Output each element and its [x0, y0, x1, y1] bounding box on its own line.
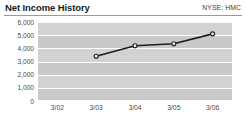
net-income-history-widget: Net Income History NYSE: HMC 6,0005,0004… [0, 0, 246, 128]
y-axis-tick-label: 2,000 [17, 71, 34, 78]
y-axis-tick-label: 5,000 [17, 32, 34, 39]
series-data-point [94, 54, 98, 58]
x-axis-tick-label: 3/02 [51, 104, 64, 111]
y-axis: 6,0005,0004,0003,0002,0001,0000 [0, 22, 36, 105]
page-title: Net Income History [5, 2, 90, 13]
series-line-net-income [96, 34, 212, 56]
widget-header: Net Income History NYSE: HMC [0, 0, 246, 16]
x-axis-tick-label: 3/04 [128, 104, 141, 111]
series-data-point [172, 42, 176, 46]
series-data-point [211, 32, 215, 36]
chart-plot-area [38, 22, 232, 101]
series-data-point [133, 44, 137, 48]
y-axis-tick-label: 3,000 [17, 58, 34, 65]
y-axis-tick-label: 6,000 [17, 19, 34, 26]
x-axis: 3/023/033/043/053/06 [38, 104, 232, 116]
header-divider [4, 15, 242, 16]
x-axis-tick-label: 3/06 [206, 104, 219, 111]
ticker-symbol: NYSE: HMC [202, 4, 241, 11]
y-axis-tick-label: 0 [30, 98, 34, 105]
y-axis-tick-label: 1,000 [17, 84, 34, 91]
x-axis-tick-label: 3/05 [167, 104, 180, 111]
y-axis-tick-label: 4,000 [17, 45, 34, 52]
net-income-series [38, 22, 232, 101]
x-axis-tick-label: 3/03 [90, 104, 103, 111]
